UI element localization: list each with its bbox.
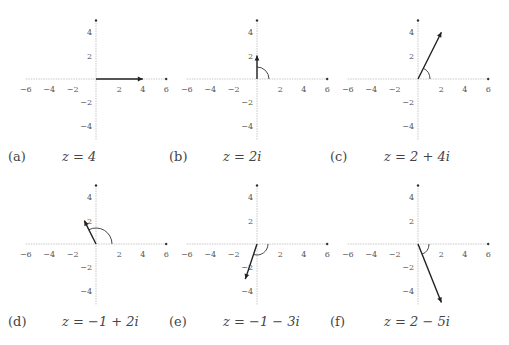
panel-a: −6−4−224642−2−4(a)z = 4 — [8, 19, 169, 164]
argument-arc — [257, 67, 269, 79]
panel-e: −6−4−224642−2−4(e)z = −1 − 3i — [169, 184, 330, 329]
y-tick-label: −4 — [80, 287, 92, 296]
vector-line — [418, 32, 441, 79]
panel-equation: z = 4 — [61, 149, 96, 164]
x-tick-label: 2 — [439, 85, 444, 94]
x-tick-label: 6 — [164, 85, 169, 94]
axis-end-dot — [487, 78, 489, 80]
y-tick-label: −2 — [402, 98, 414, 107]
arrowhead-icon — [138, 77, 143, 82]
y-tick-label: −2 — [241, 263, 253, 272]
x-tick-label: 2 — [278, 250, 283, 259]
panel-equation: z = −1 − 3i — [222, 314, 300, 329]
x-tick-label: −4 — [365, 85, 377, 94]
y-tick-label: 4 — [409, 193, 414, 202]
x-tick-label: 2 — [117, 250, 122, 259]
x-tick-label: −4 — [204, 250, 216, 259]
x-tick-label: 6 — [325, 85, 330, 94]
y-tick-label: −4 — [80, 122, 92, 131]
axis-end-dot — [256, 19, 258, 21]
y-tick-label: −2 — [241, 98, 253, 107]
panel-label: (d) — [8, 314, 26, 329]
x-tick-label: −6 — [181, 85, 193, 94]
axis-end-dot — [417, 184, 419, 186]
axis-end-dot — [95, 19, 97, 21]
y-tick-label: −2 — [80, 98, 92, 107]
panel-b: −6−4−224642−2−4(b)z = 2i — [169, 19, 330, 164]
x-tick-label: 2 — [117, 85, 122, 94]
x-tick-label: 2 — [278, 85, 283, 94]
y-tick-label: 2 — [248, 217, 253, 226]
x-tick-label: 4 — [462, 85, 467, 94]
x-tick-label: 6 — [486, 85, 491, 94]
panel-label: (c) — [330, 149, 347, 164]
panel-label: (a) — [8, 149, 26, 164]
x-tick-label: −6 — [181, 250, 193, 259]
axis-end-dot — [326, 243, 328, 245]
y-tick-label: −4 — [241, 122, 253, 131]
axis-end-dot — [165, 243, 167, 245]
y-tick-label: −4 — [402, 287, 414, 296]
vector-line — [245, 244, 257, 279]
panel-equation: z = 2 − 5i — [383, 314, 450, 329]
x-tick-label: 4 — [301, 250, 306, 259]
panel-equation: z = 2i — [222, 149, 261, 164]
y-tick-label: 4 — [409, 28, 414, 37]
y-tick-label: −4 — [402, 122, 414, 131]
x-tick-label: −2 — [67, 85, 79, 94]
arrowhead-icon — [255, 56, 260, 61]
panel-d: −6−4−224642−2−4(d)z = −1 + 2i — [8, 184, 169, 329]
argument-arc — [422, 244, 429, 254]
x-tick-label: 6 — [486, 250, 491, 259]
x-tick-label: −4 — [43, 250, 55, 259]
axis-end-dot — [417, 19, 419, 21]
y-tick-label: 4 — [248, 28, 253, 37]
x-tick-label: −6 — [20, 85, 32, 94]
y-tick-label: −4 — [241, 287, 253, 296]
x-tick-label: −2 — [67, 250, 79, 259]
x-tick-label: −4 — [43, 85, 55, 94]
y-tick-label: −2 — [402, 263, 414, 272]
x-tick-label: 6 — [325, 250, 330, 259]
y-tick-label: 4 — [87, 28, 92, 37]
panel-c: −6−4−224642−2−4(c)z = 2 + 4i — [330, 19, 491, 164]
x-tick-label: −4 — [204, 85, 216, 94]
y-tick-label: 2 — [248, 52, 253, 61]
x-tick-label: −4 — [365, 250, 377, 259]
axis-end-dot — [95, 184, 97, 186]
x-tick-label: 4 — [301, 85, 306, 94]
x-tick-label: 4 — [462, 250, 467, 259]
axis-end-dot — [256, 184, 258, 186]
x-tick-label: −2 — [228, 85, 240, 94]
y-tick-label: 4 — [87, 193, 92, 202]
x-tick-label: 2 — [439, 250, 444, 259]
x-tick-label: −6 — [342, 250, 354, 259]
arrowhead-icon — [245, 274, 250, 280]
axis-end-dot — [165, 78, 167, 80]
x-tick-label: 4 — [140, 250, 145, 259]
y-tick-label: 2 — [409, 217, 414, 226]
x-tick-label: 4 — [140, 85, 145, 94]
y-tick-label: 2 — [87, 52, 92, 61]
panel-equation: z = 2 + 4i — [383, 149, 450, 164]
panel-f: −6−4−224642−2−4(f)z = 2 − 5i — [330, 184, 491, 329]
axis-end-dot — [487, 243, 489, 245]
panel-label: (e) — [169, 314, 187, 329]
x-tick-label: −2 — [389, 250, 401, 259]
y-tick-label: 4 — [248, 193, 253, 202]
x-tick-label: −2 — [228, 250, 240, 259]
complex-plane-figure: −6−4−224642−2−4(a)z = 4−6−4−224642−2−4(b… — [0, 0, 509, 345]
panel-label: (f) — [330, 314, 345, 329]
axis-end-dot — [326, 78, 328, 80]
y-tick-label: 2 — [409, 52, 414, 61]
x-tick-label: −2 — [389, 85, 401, 94]
x-tick-label: −6 — [20, 250, 32, 259]
panel-equation: z = −1 + 2i — [61, 314, 139, 329]
y-tick-label: −2 — [80, 263, 92, 272]
panel-label: (b) — [169, 149, 187, 164]
x-tick-label: 6 — [164, 250, 169, 259]
x-tick-label: −6 — [342, 85, 354, 94]
argument-arc — [423, 68, 430, 79]
